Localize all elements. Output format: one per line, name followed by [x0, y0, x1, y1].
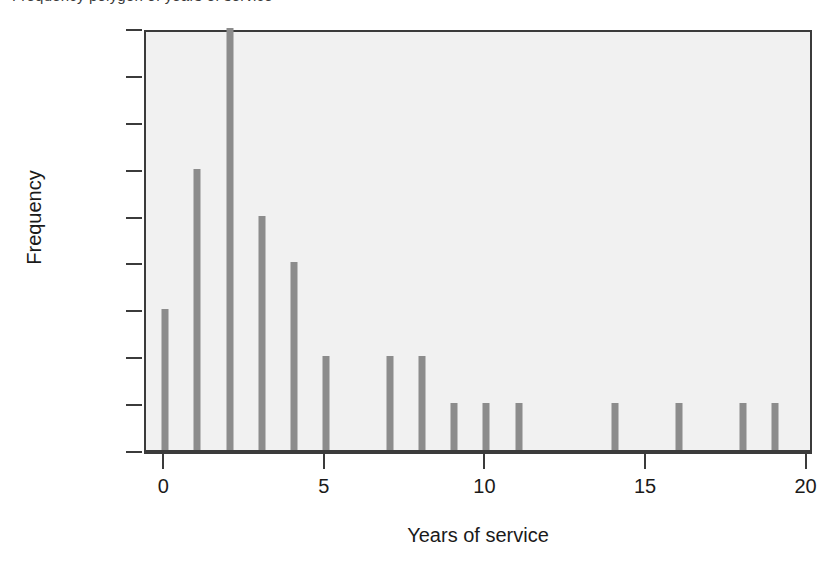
- x-tick-mark: [162, 454, 164, 469]
- histogram-figure: Frequency polygon of years of service 01…: [0, 0, 839, 575]
- bar: [419, 356, 426, 450]
- y-axis-title: Frequency: [23, 118, 46, 318]
- bar: [611, 403, 618, 450]
- x-axis-title: Years of service: [144, 524, 812, 547]
- x-tick-label: 10: [454, 475, 514, 498]
- bar: [740, 403, 747, 450]
- y-tick-mark: [126, 404, 142, 406]
- x-axis-line: [144, 452, 812, 454]
- x-tick-label: 15: [615, 475, 675, 498]
- x-tick-mark: [323, 454, 325, 469]
- bar: [162, 309, 169, 450]
- bar: [515, 403, 522, 450]
- y-tick-mark: [126, 29, 142, 31]
- x-tick-label: 0: [133, 475, 193, 498]
- plot-area: [144, 30, 812, 452]
- bar: [387, 356, 394, 450]
- x-tick-mark: [805, 454, 807, 469]
- y-tick-mark: [126, 263, 142, 265]
- x-tick-label: 20: [776, 475, 836, 498]
- bar: [676, 403, 683, 450]
- y-tick-mark: [126, 76, 142, 78]
- y-tick-mark: [126, 357, 142, 359]
- bar: [194, 169, 201, 450]
- y-tick-mark: [126, 310, 142, 312]
- y-tick-mark: [126, 123, 142, 125]
- bar: [322, 356, 329, 450]
- bar: [483, 403, 490, 450]
- y-tick-mark: [126, 170, 142, 172]
- bar: [772, 403, 779, 450]
- bar: [258, 216, 265, 450]
- bar: [290, 262, 297, 450]
- bar: [451, 403, 458, 450]
- y-tick-mark: [126, 217, 142, 219]
- x-tick-mark: [644, 454, 646, 469]
- bar: [226, 28, 233, 450]
- x-tick-label: 5: [294, 475, 354, 498]
- x-tick-mark: [483, 454, 485, 469]
- x-axis: 05101520 Years of service: [0, 452, 839, 575]
